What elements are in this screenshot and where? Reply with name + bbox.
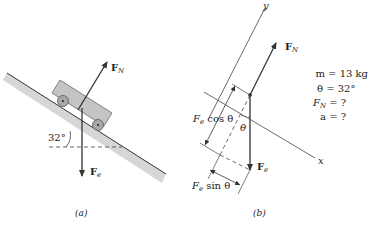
panel-b: y x FN Fe θ Fe cos θ Fe sin θ (b) bbox=[191, 0, 324, 218]
cos-extension-top bbox=[232, 84, 250, 95]
theta-label: θ bbox=[240, 122, 246, 133]
caption-a: (a) bbox=[75, 208, 88, 218]
normal-force-label: FN bbox=[111, 62, 125, 75]
given-theta: θ = 32° bbox=[317, 83, 355, 94]
incline-line bbox=[7, 73, 166, 174]
normal-force-arrow-b bbox=[250, 43, 276, 95]
normal-force-label-b: FN bbox=[285, 41, 299, 54]
weight-force-label: Fe bbox=[90, 166, 101, 179]
cos-component-label: Fe cos θ bbox=[192, 113, 233, 126]
caption-b: (b) bbox=[253, 208, 266, 218]
panel-a: 32° FN Fe (a) bbox=[3, 62, 166, 218]
given-acceleration: a = ? bbox=[320, 111, 346, 122]
weight-force-label-b: Fe bbox=[257, 161, 268, 174]
x-axis-label: x bbox=[318, 155, 324, 166]
givens-block: m = 13 kg θ = 32° FN = ? a = ? bbox=[312, 68, 369, 122]
sin-extension-left bbox=[208, 155, 220, 179]
y-axis-label: y bbox=[262, 0, 269, 11]
incline-surface bbox=[3, 73, 166, 183]
sin-component-dashed bbox=[220, 155, 250, 170]
angle-label: 32° bbox=[48, 132, 66, 143]
sin-extension-right bbox=[238, 170, 250, 194]
sin-component-label: Fe sin θ bbox=[191, 180, 230, 193]
x-axis bbox=[204, 92, 315, 158]
wheel-front bbox=[58, 96, 69, 107]
cos-extension-bottom bbox=[200, 143, 220, 155]
wheel-rear bbox=[93, 120, 104, 131]
y-axis bbox=[209, 8, 265, 118]
free-body-diagram: 32° FN Fe (a) y x FN Fe θ bbox=[0, 0, 369, 227]
angle-arc bbox=[66, 131, 70, 147]
given-normal-force: FN = ? bbox=[312, 97, 346, 110]
given-mass: m = 13 kg bbox=[315, 68, 368, 79]
